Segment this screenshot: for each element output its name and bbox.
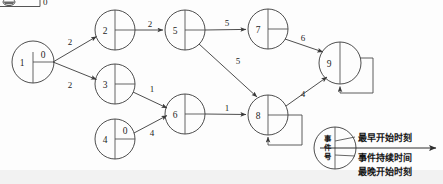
edge-6-8 (205, 114, 246, 115)
node-7-label: 7 (256, 25, 261, 35)
node-7[interactable]: 7 (248, 9, 288, 49)
edge-label-3-6: 1 (150, 84, 155, 94)
self-loop-8 (268, 115, 302, 145)
node-6[interactable]: 6 (165, 94, 205, 134)
legend-node-char-2: 件 (324, 143, 332, 152)
legend-node-char-1: 事 (324, 134, 332, 143)
node-4[interactable]: 4 0 (95, 119, 135, 159)
node-9-label: 9 (327, 59, 332, 69)
legend-node-char-3: 号 (324, 152, 332, 161)
edge-1-3 (53, 62, 97, 80)
node-2[interactable]: 2 (95, 10, 135, 50)
legend-group: 事 件 号 最早开始时刻 事件持续时间 最晚开始时刻 (314, 127, 436, 177)
network-diagram-svg: 0 (0, 0, 443, 184)
edge-label-1-2: 2 (68, 37, 73, 47)
diagram-canvas: 0 (0, 0, 443, 184)
legend-sector-line-2 (335, 155, 355, 156)
node-6-label: 6 (173, 110, 178, 120)
edge-3-6 (133, 92, 167, 108)
edge-labels-group: 2 2 2 5 5 6 1 4 1 4 (68, 18, 306, 138)
node-9[interactable]: 9 (319, 42, 361, 84)
node-1-topright: 0 (41, 50, 46, 60)
node-3-label: 3 (103, 80, 108, 90)
edge-label-6-8: 1 (225, 103, 230, 113)
node-2-label: 2 (103, 26, 108, 36)
top-left-artifact: 0 (0, 0, 48, 7)
edge-label-5-7: 5 (225, 18, 230, 28)
node-4-topright: 0 (123, 126, 128, 136)
svg-text:0: 0 (43, 0, 48, 7)
edge-5-7 (205, 29, 246, 30)
legend-label-earliest-start: 最早开始时刻 (358, 132, 412, 143)
legend-label-duration: 事件持续时间 (358, 152, 412, 163)
edge-1-2 (53, 37, 97, 63)
edge-label-7-9: 6 (301, 33, 306, 43)
edges-group (53, 29, 327, 133)
node-8[interactable]: 8 (248, 95, 288, 135)
node-3[interactable]: 3 (95, 64, 135, 104)
edge-label-8-9: 4 (301, 89, 306, 99)
node-5-label: 5 (173, 26, 178, 36)
edge-label-2-5: 2 (148, 19, 153, 29)
edge-label-1-3: 2 (68, 80, 73, 90)
legend-label-latest-start: 最晚开始时刻 (358, 166, 412, 177)
edge-8-9 (286, 77, 327, 106)
node-5[interactable]: 5 (165, 10, 205, 50)
edge-label-5-8: 5 (236, 56, 241, 66)
node-8-label: 8 (256, 111, 261, 121)
edge-label-4-6: 4 (150, 128, 155, 138)
node-4-label: 4 (103, 135, 108, 145)
node-1[interactable]: 1 0 (12, 41, 54, 83)
edge-5-8 (199, 44, 257, 97)
legend-sector-line-1 (335, 137, 355, 141)
nodes-group: 1 0 2 3 (12, 9, 361, 159)
node-1-label: 1 (20, 58, 25, 68)
